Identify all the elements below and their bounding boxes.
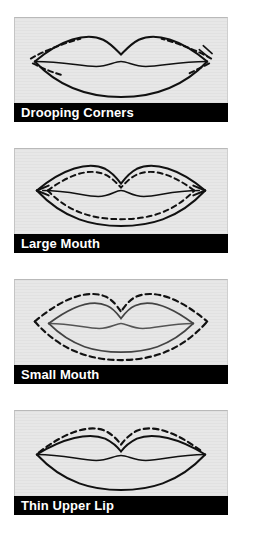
lips-diagram-icon (15, 149, 227, 234)
panel-large-mouth: Large Mouth (14, 148, 228, 253)
panel-label-bar: Drooping Corners (14, 103, 228, 122)
panel-label-text: Drooping Corners (21, 106, 134, 119)
panel-label-text: Large Mouth (21, 237, 100, 250)
panel-label-text: Small Mouth (21, 368, 99, 381)
lips-diagram-icon (15, 18, 227, 103)
illustration-sheet: Drooping Corners Large Mou (0, 0, 256, 546)
lips-figure-thin-upper-lip (14, 410, 228, 496)
lips-diagram-icon (15, 280, 227, 365)
lips-diagram-icon (15, 411, 227, 496)
panel-thin-upper-lip: Thin Upper Lip (14, 410, 228, 515)
lips-figure-large-mouth (14, 148, 228, 234)
panel-small-mouth: Small Mouth (14, 279, 228, 384)
panel-label-bar: Small Mouth (14, 365, 228, 384)
panel-label-bar: Thin Upper Lip (14, 496, 228, 515)
lips-figure-drooping-corners (14, 17, 228, 103)
panel-label-bar: Large Mouth (14, 234, 228, 253)
panel-drooping-corners: Drooping Corners (14, 17, 228, 122)
panel-label-text: Thin Upper Lip (21, 499, 114, 512)
lips-figure-small-mouth (14, 279, 228, 365)
